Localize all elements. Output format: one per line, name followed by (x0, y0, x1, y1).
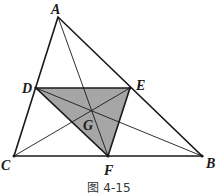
point-d-dot (35, 87, 38, 90)
triangle-diagram: A D E G C F B 图 4-15 (0, 0, 218, 196)
point-b-dot (201, 155, 204, 158)
label-e: E (135, 78, 145, 93)
figure-caption: 图 4-15 (87, 181, 130, 195)
point-e-dot (129, 87, 132, 90)
point-c-dot (13, 155, 16, 158)
label-d: D (21, 81, 32, 96)
label-f: F (103, 163, 114, 178)
line-af (58, 17, 108, 156)
label-c: C (1, 158, 11, 173)
label-g: G (83, 118, 93, 133)
label-a: A (50, 2, 60, 17)
label-b: B (205, 156, 215, 171)
point-f-dot (107, 155, 110, 158)
